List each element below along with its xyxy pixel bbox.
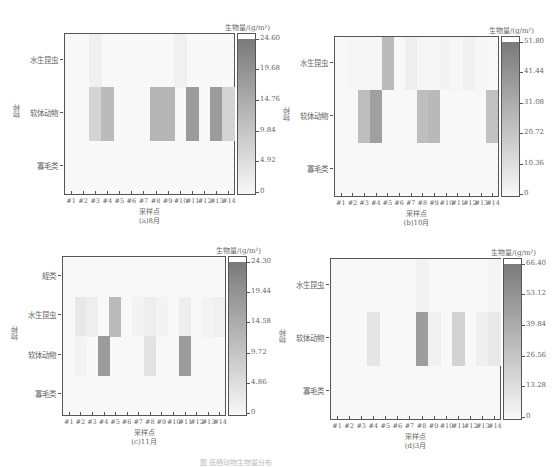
x-tick [481, 193, 482, 196]
x-tick-label: #4 [98, 418, 110, 426]
heatmap-cell [475, 37, 487, 90]
colorbar-tick-label: 14.58 [251, 317, 271, 325]
colorbar [237, 33, 256, 195]
heatmap-cell [367, 312, 380, 366]
row-label: 寡毛类 [37, 160, 58, 171]
x-tick [482, 416, 483, 419]
row-label: 软体动物 [30, 107, 58, 118]
x-tick [92, 412, 93, 415]
heatmap-cell [382, 37, 394, 90]
x-tick [422, 416, 423, 419]
figure-caption: 图 底栖动物生物量分布 [200, 457, 272, 467]
y-axis-title: 物种 [10, 326, 20, 340]
x-tick-label: #9 [428, 199, 440, 207]
x-tick-label: #6 [125, 197, 137, 205]
heatmap-cell [358, 37, 370, 90]
x-tick [119, 191, 120, 194]
x-tick-label: #5 [379, 422, 391, 430]
heatmap-cell [174, 34, 187, 88]
x-tick [107, 191, 108, 194]
x-tick-label: #14 [222, 197, 234, 205]
x-tick-label: #3 [358, 199, 370, 207]
x-tick [138, 412, 139, 415]
heatmap-cell [75, 336, 87, 376]
subplot-caption: (a)8月 [120, 215, 180, 225]
heatmap-cell [101, 87, 114, 141]
x-tick-label: #13 [475, 199, 487, 207]
x-tick [397, 416, 398, 419]
heatmap-cell [440, 37, 452, 90]
row-label: 软体动物 [28, 349, 56, 360]
heatmap-cell [347, 37, 359, 90]
x-tick [434, 416, 435, 419]
heatmap-plot-area [330, 258, 501, 420]
colorbar-title: 生物量/(g/m²) [225, 22, 270, 32]
colorbar-tick-label: 9.84 [260, 126, 276, 134]
subplot-caption: (d)3月 [386, 440, 446, 450]
heatmap-cell [98, 336, 110, 376]
x-tick [95, 191, 96, 194]
heatmap-cell [476, 312, 489, 366]
x-tick-label: #14 [213, 418, 225, 426]
heatmap-cell [358, 90, 370, 143]
x-tick-label: #13 [210, 197, 222, 205]
x-tick-label: #1 [65, 197, 77, 205]
x-tick [208, 412, 209, 415]
x-tick-label: #7 [405, 199, 417, 207]
y-axis-title: 物种 [282, 107, 292, 121]
heatmap-cell [156, 297, 168, 337]
heatmap-cell [132, 297, 144, 337]
x-tick-label: #9 [155, 418, 167, 426]
row-label: 水生昆虫 [296, 279, 324, 290]
colorbar-tick-label: 39.84 [526, 320, 546, 328]
x-tick-label: #7 [403, 422, 415, 430]
x-tick [219, 412, 220, 415]
heatmap-cell [162, 87, 175, 141]
colorbar-tick-label: 66.40 [526, 259, 546, 267]
x-tick [470, 416, 471, 419]
x-tick [228, 191, 229, 194]
x-tick [173, 412, 174, 415]
x-tick [492, 193, 493, 196]
colorbar-title: 生物量/(g/m²) [491, 247, 536, 257]
x-tick-label: #10 [440, 422, 452, 430]
heatmap-cell [416, 312, 429, 366]
x-tick [143, 191, 144, 194]
row-label: 水生昆虫 [30, 54, 58, 65]
y-axis-title: 物种 [12, 104, 22, 118]
x-tick [180, 191, 181, 194]
x-tick-label: #1 [63, 418, 75, 426]
x-tick-label: #4 [367, 422, 379, 430]
x-tick-label: #13 [476, 422, 488, 430]
heatmap-cell [144, 297, 156, 337]
heatmap-cell [486, 90, 498, 143]
heatmap-cell [210, 87, 223, 141]
row-label: 水生昆虫 [28, 309, 56, 320]
x-tick [156, 191, 157, 194]
x-tick [80, 412, 81, 415]
x-tick [411, 193, 412, 196]
colorbar-tick-label: 4.92 [260, 156, 276, 164]
x-tick [352, 193, 353, 196]
x-tick-label: #8 [416, 199, 428, 207]
x-tick-label: #2 [74, 418, 86, 426]
x-tick-label: #6 [121, 418, 133, 426]
x-tick-label: #12 [464, 422, 476, 430]
x-tick-label: #11 [179, 418, 191, 426]
x-tick-label: #1 [335, 199, 347, 207]
row-label: 水生昆虫 [300, 57, 328, 68]
x-tick-label: #1 [331, 422, 343, 430]
heatmap-cell [451, 37, 463, 90]
colorbar-tick-label: 0 [526, 412, 530, 420]
heatmap-plot-area [64, 33, 235, 195]
colorbar-tick-label: 13.28 [526, 381, 546, 389]
heatmap-cell [405, 37, 417, 90]
x-tick [115, 412, 116, 415]
heatmap-cell [213, 297, 225, 337]
colorbar-title: 生物量/(g/m²) [216, 245, 261, 255]
x-tick [127, 412, 128, 415]
x-tick-label: #3 [355, 422, 367, 430]
x-tick [349, 416, 350, 419]
x-tick-label: #14 [488, 422, 500, 430]
y-axis-title: 物种 [278, 329, 288, 343]
